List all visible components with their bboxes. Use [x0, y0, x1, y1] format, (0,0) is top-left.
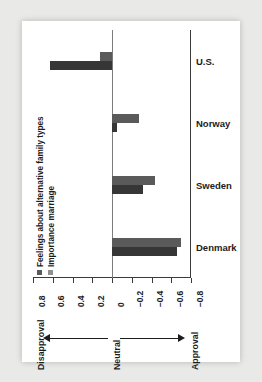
legend-swatch	[48, 270, 53, 275]
axis-tick-label: 0.6	[56, 296, 66, 307]
axis-tick-label: −0.6	[175, 291, 185, 307]
tick-labels: 0.80.60.40.20−0.2−0.4−0.6−0.8	[33, 283, 191, 313]
axis-tick-label: 0.2	[96, 296, 106, 307]
arrow-line-right	[120, 338, 178, 339]
arrow-line-left	[50, 338, 108, 339]
axis-tick-label: 0.8	[37, 296, 47, 307]
bar-denmark-importance	[112, 247, 177, 256]
bar-sweden-feelings	[112, 176, 155, 185]
bar-sweden-importance	[112, 185, 143, 194]
scale-annotation: Disapproval Neutral Approval	[28, 312, 196, 374]
legend-swatch	[37, 270, 42, 275]
axis-tick-label: 0.4	[76, 296, 86, 307]
axis-tick-label: −0.8	[195, 291, 205, 307]
category-axis-line	[190, 30, 191, 278]
bar-norway-importance	[112, 123, 117, 132]
bar-denmark-feelings	[112, 238, 181, 247]
category-label: Denmark	[196, 242, 237, 253]
chart-figure: 0.80.60.40.20−0.2−0.4−0.6−0.8 U.S.Norway…	[0, 0, 262, 382]
annotation-disapproval: Disapproval	[36, 320, 46, 370]
axis-tick-label: 0	[116, 302, 126, 307]
legend-item: Feelings about alternative family types	[36, 116, 45, 275]
legend-item: Importance marriage	[47, 186, 56, 275]
arrow-head-left	[43, 334, 50, 342]
axis-tick-label: −0.2	[135, 291, 145, 307]
annotation-approval: Approval	[190, 332, 200, 370]
annotation-neutral: Neutral	[112, 340, 122, 370]
axis-tick	[191, 278, 192, 283]
category-label: Sweden	[196, 180, 232, 191]
chart-legend: Feelings about alternative family typesI…	[36, 60, 62, 275]
bar-us-feelings	[100, 52, 112, 61]
legend-label: Feelings about alternative family types	[36, 116, 45, 267]
axis-tick-label: −0.4	[155, 291, 165, 307]
arrow-head-right	[178, 334, 185, 342]
category-label: Norway	[196, 118, 230, 129]
bar-norway-feelings	[112, 114, 139, 123]
category-label: U.S.	[196, 56, 214, 67]
legend-label: Importance marriage	[47, 186, 56, 267]
